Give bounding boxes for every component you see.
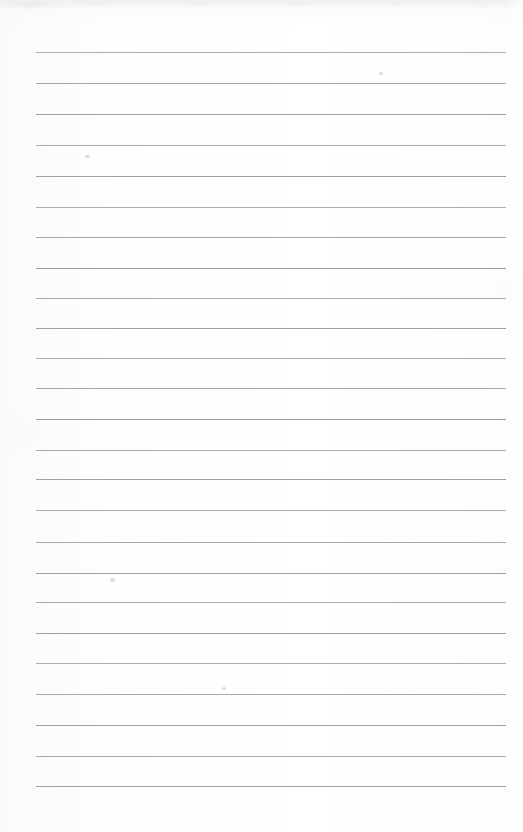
rule-line [36, 237, 506, 238]
rule-line [36, 207, 506, 208]
rule-line [36, 725, 506, 726]
rule-line [36, 573, 506, 574]
rule-line [36, 633, 506, 634]
rule-line [36, 358, 506, 359]
rule-line [36, 663, 506, 664]
rule-line [36, 268, 506, 269]
rule-line [36, 602, 506, 603]
rule-line [36, 694, 506, 695]
rule-line [36, 510, 506, 511]
scanned-page [0, 0, 523, 832]
paper-surface [0, 0, 523, 832]
rule-line [36, 786, 506, 787]
rule-line [36, 298, 506, 299]
rule-line [36, 145, 506, 146]
rule-line [36, 542, 506, 543]
rule-line [36, 450, 506, 451]
rule-line [36, 83, 506, 84]
rule-line [36, 52, 506, 53]
rule-line [36, 756, 506, 757]
rule-line [36, 114, 506, 115]
rule-line [36, 176, 506, 177]
rule-line [36, 388, 506, 389]
rule-line [36, 328, 506, 329]
rule-line [36, 479, 506, 480]
rule-line [36, 419, 506, 420]
